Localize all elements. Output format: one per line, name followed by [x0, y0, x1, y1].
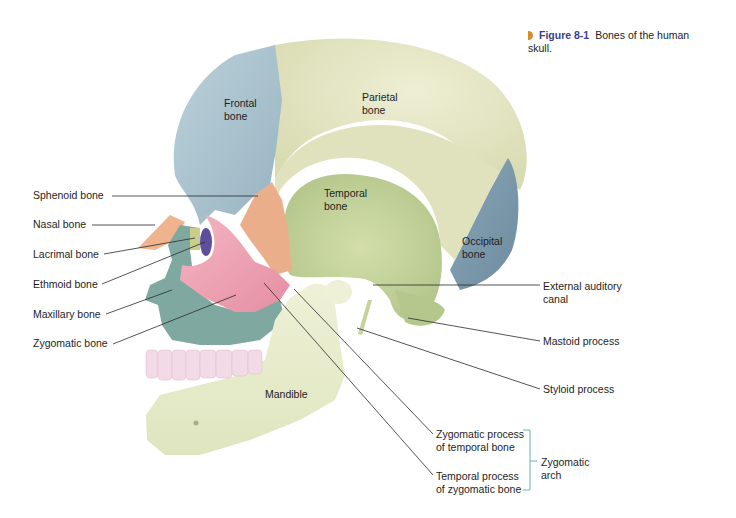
label-external-auditory-line1: External auditory [543, 280, 622, 292]
label-zygomatic-process-temporal: Zygomatic process of temporal bone [436, 428, 524, 454]
label-sphenoid-bone: Sphenoid bone [33, 189, 104, 202]
label-parietal-bone: Parietal bone [362, 91, 398, 117]
label-zyg-process-line1: Zygomatic process [436, 428, 524, 440]
label-zyg-process-line2: of temporal bone [436, 441, 515, 453]
styloid-process [358, 300, 372, 335]
label-mandible: Mandible [265, 388, 308, 401]
label-styloid-process: Styloid process [543, 383, 614, 396]
figure-caption: Figure 8-1Bones of the human skull. [528, 29, 728, 55]
skull-illustration [0, 0, 736, 518]
label-zygomatic-arch: Zygomatic arch [541, 456, 589, 482]
label-external-auditory-canal: External auditory canal [543, 280, 622, 306]
figure-title-line2: skull. [528, 42, 552, 54]
skull-diagram: Figure 8-1Bones of the human skull. Fron… [0, 0, 736, 518]
label-nasal-bone: Nasal bone [33, 218, 86, 231]
label-occipital-bone: Occipital bone [462, 235, 502, 261]
label-zyg-arch-line2: arch [541, 469, 561, 481]
label-temporal-bone: Temporal bone [324, 187, 367, 213]
ethmoid-bone [200, 228, 212, 256]
label-ethmoid-bone: Ethmoid bone [33, 278, 98, 291]
zygomatic-arch-bracket [523, 430, 537, 490]
label-parietal-line1: Parietal [362, 91, 398, 103]
label-temporal-line1: Temporal [324, 187, 367, 199]
label-zyg-arch-line1: Zygomatic [541, 456, 589, 468]
label-temp-process-line2: of zygomatic bone [436, 483, 521, 495]
mental-foramen [194, 421, 199, 426]
label-zygomatic-bone: Zygomatic bone [33, 337, 108, 350]
label-frontal-line2: bone [224, 110, 247, 122]
label-temporal-line2: bone [324, 200, 347, 212]
label-frontal-line1: Frontal [224, 97, 257, 109]
label-occipital-line1: Occipital [462, 235, 502, 247]
label-lacrimal-bone: Lacrimal bone [33, 248, 99, 261]
label-occipital-line2: bone [462, 248, 485, 260]
label-mastoid-process: Mastoid process [543, 335, 619, 348]
figure-marker-icon [528, 31, 533, 40]
label-temporal-process-zygomatic: Temporal process of zygomatic bone [436, 470, 521, 496]
label-external-auditory-line2: canal [543, 293, 568, 305]
figure-title-line1: Bones of the human [595, 29, 689, 41]
mandibular-condyle [324, 280, 352, 304]
figure-number: Figure 8-1 [539, 29, 589, 41]
label-frontal-bone: Frontal bone [224, 97, 257, 123]
label-maxillary-bone: Maxillary bone [33, 308, 101, 321]
label-parietal-line2: bone [362, 104, 385, 116]
upper-teeth [146, 350, 262, 380]
label-temp-process-line1: Temporal process [436, 470, 519, 482]
